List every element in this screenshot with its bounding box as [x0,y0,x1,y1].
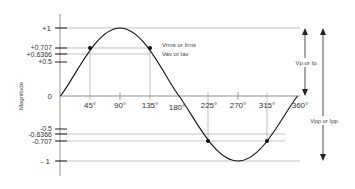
y-axis-label: Magnitude [18,81,24,110]
x-tick-label-315: 315° [259,101,276,110]
x-tick-label-225: 225° [201,101,218,110]
y-tick-label-plus-05: +0.5 [38,58,52,65]
x-tick-label-180: 180° [169,103,186,112]
pp-arrow-up-icon [320,28,326,35]
x-tick-label-90: 90° [114,101,126,110]
rms-label: Vrms or Irms [162,42,196,48]
sine-wave-diagram: +1 +0.707 +0.6366 +0.5 0 -0.5 -0.6366 -0… [0,0,355,189]
avg-label: Vav or Iav [162,51,189,57]
point-225 [206,139,210,143]
pp-arrow-down-icon [320,154,326,161]
peak-to-peak-label: Vpp or Ipp [310,118,338,124]
peak-label: Vp or Ip [295,60,317,66]
x-tick-label-360: 360° [292,101,309,110]
peak-arrow-up-icon [302,28,308,35]
y-tick-label-plus-06366: +0.6366 [27,51,53,58]
y-tick-label-minus-06366: -0.6366 [28,131,52,138]
y-tick-label-minus-1: - 1 [41,157,51,166]
y-tick-label-plus-1: +1 [42,24,52,33]
point-45 [88,46,92,50]
point-135 [148,46,152,50]
peak-arrow-down-icon [302,89,308,96]
y-tick-label-plus-0707: +0.707 [30,44,52,51]
y-tick-label-minus-0707: -0.707 [32,138,52,145]
y-tick-label-zero: 0 [48,92,53,101]
x-tick-label-270: 270° [230,101,247,110]
x-tick-label-135: 135° [142,101,159,110]
point-315 [265,139,269,143]
x-tick-label-45: 45° [84,101,96,110]
